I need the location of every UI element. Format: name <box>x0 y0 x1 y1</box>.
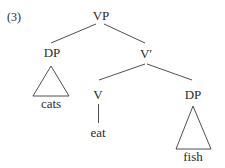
branch-vbar-v <box>99 64 145 80</box>
triangle-subject-dp <box>33 66 69 96</box>
branch-vbar-dp <box>147 64 192 80</box>
node-vp: VP <box>93 9 110 23</box>
node-v: V <box>93 88 102 102</box>
node-object-dp: DP <box>185 88 202 102</box>
node-subject-dp: DP <box>44 46 61 60</box>
branch-vp-vbar <box>104 24 145 43</box>
branch-vp-dp <box>51 24 96 43</box>
triangle-object-dp <box>176 106 211 149</box>
terminal-eat: eat <box>90 126 105 140</box>
node-vbar: V′ <box>140 47 152 61</box>
tree-branches <box>0 0 225 168</box>
terminal-cats: cats <box>41 97 61 111</box>
terminal-fish: fish <box>183 150 203 164</box>
